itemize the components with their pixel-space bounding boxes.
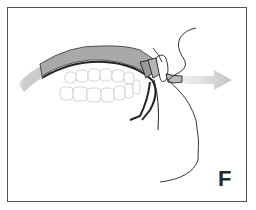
panel-label: F <box>218 168 231 190</box>
teeth-arch-icon <box>60 69 140 102</box>
lip-profile-line-icon <box>153 28 199 182</box>
